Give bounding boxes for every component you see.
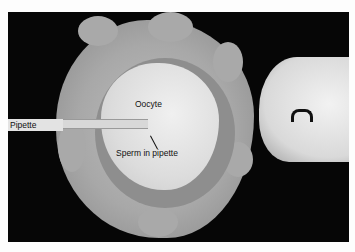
cumulus-bump [213, 42, 243, 82]
cumulus-bump [138, 207, 178, 237]
sperm-label: Sperm in pipette [116, 148, 178, 158]
holding-pipette-notch [291, 109, 313, 122]
oocyte-label: Oocyte [135, 99, 162, 109]
micrograph-photo: Oocyte Pipette Sperm in pipette [8, 12, 349, 242]
pipette-label: Pipette [10, 120, 36, 130]
cumulus-bump [78, 16, 118, 46]
cumulus-bump [148, 12, 193, 42]
